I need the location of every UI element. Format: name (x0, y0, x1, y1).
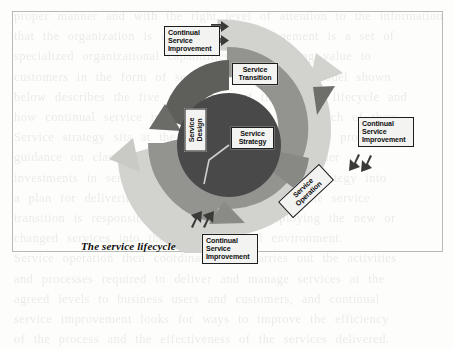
csi-top-line-1: Continual (168, 29, 216, 37)
label-service-transition[interactable]: Service Transition (232, 63, 278, 85)
label-service-design[interactable]: Service Design (185, 108, 207, 151)
label-continual-service-improvement-bottom[interactable]: Continual Service Improvement (202, 234, 258, 264)
csi-right-arrow-markers (349, 154, 372, 172)
bleed-line-16: of the process and the effectiveness of … (14, 329, 442, 349)
csi-right-arrow-2 (361, 155, 372, 172)
figure-frame: Continual Service Improvement Continual … (12, 11, 443, 252)
csi-right-line-3: Improvement (362, 136, 410, 144)
label-service-strategy[interactable]: Service Strategy (231, 127, 274, 149)
bleed-line-14: agreed levels to business users and cust… (14, 289, 442, 309)
csi-bottom-line-1: Continual (206, 237, 254, 245)
csi-bottom-line-3: Improvement (206, 253, 254, 261)
service-transition-line-2: Transition (236, 74, 274, 82)
outer-ring-arrowhead-right (309, 53, 343, 86)
csi-right-line-1: Continual (362, 120, 410, 128)
csi-top-line-2: Service (168, 37, 216, 45)
csi-top-line-3: Improvement (168, 45, 216, 53)
service-lifecycle-diagram: Continual Service Improvement Continual … (13, 12, 442, 251)
service-design-line-1: Service (187, 112, 195, 147)
label-continual-service-improvement-right[interactable]: Continual Service Improvement (358, 117, 414, 147)
bleed-line-13: and processes required to deliver and ma… (14, 269, 442, 289)
service-design-line-2: Design (195, 112, 203, 147)
service-transition-line-1: Service (236, 66, 274, 74)
bleed-line-15: service improvement looks for ways to im… (14, 309, 442, 329)
csi-right-line-2: Service (362, 128, 410, 136)
service-strategy-line-1: Service (235, 130, 270, 138)
csi-right-arrow-1 (349, 154, 360, 171)
figure-caption: The service lifecycle (81, 240, 176, 252)
service-strategy-line-2: Strategy (235, 138, 270, 146)
label-continual-service-improvement-top[interactable]: Continual Service Improvement (164, 26, 220, 56)
csi-bottom-line-2: Service (206, 245, 254, 253)
